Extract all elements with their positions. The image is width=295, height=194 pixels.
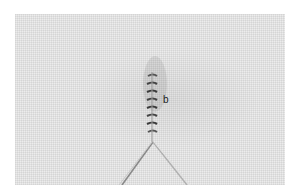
thread-coil — [147, 72, 157, 142]
photo-linen-background: b — [15, 14, 285, 185]
figure-label: b — [163, 94, 169, 105]
needle-and-thread-illustration — [15, 14, 285, 185]
